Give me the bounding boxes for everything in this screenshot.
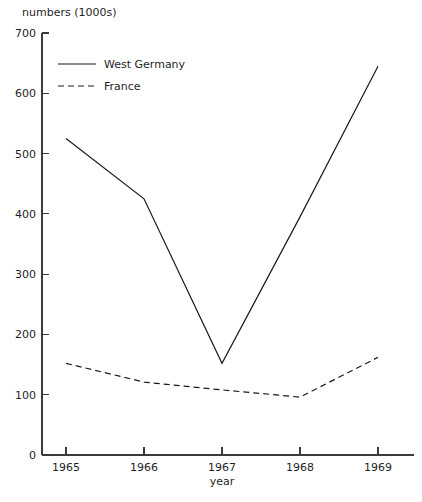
series-line-west-germany <box>66 66 378 363</box>
x-tick-label: 1965 <box>52 461 80 474</box>
y-tick-label: 600 <box>15 87 36 100</box>
y-tick-label: 300 <box>15 268 36 281</box>
legend-label-france: France <box>104 80 141 93</box>
x-tick-label: 1966 <box>130 461 158 474</box>
chart-legend: West GermanyFrance <box>58 58 186 93</box>
x-tick-label: 1967 <box>208 461 236 474</box>
y-tick-label: 100 <box>15 389 36 402</box>
y-tick-label: 0 <box>29 449 36 462</box>
y-axis-title: numbers (1000s) <box>22 6 116 19</box>
series-lines <box>66 66 378 397</box>
y-tick-label: 400 <box>15 208 36 221</box>
chart-canvas: numbers (1000s) 0100200300400500600700 1… <box>0 0 422 502</box>
y-tick-label: 500 <box>15 148 36 161</box>
x-tick-label: 1969 <box>364 461 392 474</box>
x-tick-label: 1968 <box>286 461 314 474</box>
line-chart: numbers (1000s) 0100200300400500600700 1… <box>0 0 422 502</box>
x-axis-title: year <box>210 475 235 488</box>
y-axis-ticks: 0100200300400500600700 <box>15 27 49 462</box>
y-tick-label: 200 <box>15 328 36 341</box>
x-axis-ticks: 19651966196719681969 <box>52 447 392 474</box>
legend-label-west-germany: West Germany <box>104 58 186 71</box>
y-tick-label: 700 <box>15 27 36 40</box>
